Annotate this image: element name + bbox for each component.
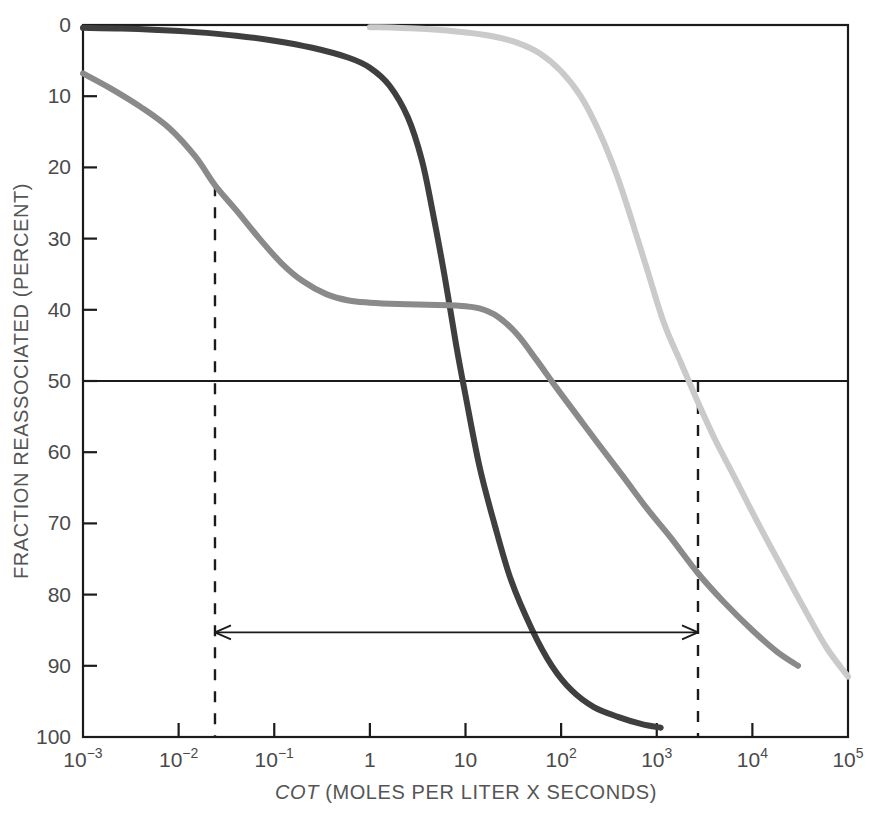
figure-background [0,0,883,814]
x-tick-base: 10 [641,748,664,771]
x-tick-exponent: −1 [278,745,294,761]
x-tick-base: 10 [159,748,182,771]
x-tick-base: 10 [454,748,477,771]
x-tick-exponent: −3 [87,745,103,761]
chart-canvas: 0102030405060708090100 10−310−210−111010… [0,0,883,814]
y-tick-label: 60 [48,440,71,463]
y-tick-label: 30 [48,227,71,250]
y-tick-label: 20 [48,155,71,178]
y-tick-label: 10 [48,84,71,107]
x-tick-base: 10 [63,748,86,771]
x-tick-base: 10 [546,748,569,771]
x-axis-title-units: (MOLES PER LITER X SECONDS) [319,781,657,803]
x-tick-label: 1 [364,748,376,771]
y-tick-label: 0 [59,13,71,36]
x-tick-exponent: 2 [569,745,577,761]
x-tick-exponent: 5 [856,745,864,761]
x-tick-base: 10 [737,748,760,771]
chart-figure: 0102030405060708090100 10−310−210−111010… [0,0,883,814]
x-tick-base: 10 [832,748,855,771]
x-tick-base: 1 [364,748,376,771]
y-axis-title: FRACTION REASSOCIATED (PERCENT) [10,183,32,579]
x-tick-label: 10 [454,748,477,771]
x-axis-title-symbol: COT [275,781,320,803]
x-tick-exponent: 4 [760,745,768,761]
x-axis-title: COT (MOLES PER LITER X SECONDS) [275,781,657,803]
y-tick-label: 50 [48,369,71,392]
y-tick-label: 70 [48,511,71,534]
y-tick-label: 100 [36,725,71,748]
y-tick-label: 90 [48,654,71,677]
x-tick-exponent: −2 [182,745,198,761]
x-tick-base: 10 [255,748,278,771]
x-tick-exponent: 3 [665,745,673,761]
y-tick-label: 40 [48,298,71,321]
y-tick-label: 80 [48,583,71,606]
